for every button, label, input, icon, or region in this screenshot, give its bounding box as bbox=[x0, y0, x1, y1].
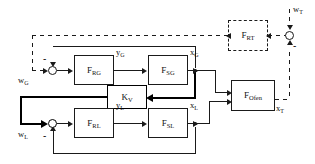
arrowhead-frt-output bbox=[226, 33, 231, 39]
wire-xt-feedback-vertical bbox=[289, 52, 290, 100]
wire-kv-to-suml bbox=[20, 123, 42, 125]
arrowhead-xg-into-ofen bbox=[227, 90, 232, 96]
minus-sign-temperature: - bbox=[293, 41, 296, 51]
block-f-rt-subscript: RT bbox=[247, 35, 255, 42]
arrowhead-into-kv bbox=[146, 94, 153, 102]
block-f-rg[interactable]: FRG bbox=[74, 55, 114, 85]
wire-xg-to-ofen-vertical bbox=[215, 70, 216, 92]
block-f-sg-subscript: SG bbox=[166, 70, 174, 77]
block-f-ofen[interactable]: FOfen bbox=[231, 80, 275, 111]
wire-xg-feedback-down bbox=[0, 0, 1, 20]
signal-label-w-g: wG bbox=[18, 76, 28, 85]
arrowhead-xl-into-ofen bbox=[227, 99, 232, 105]
summing-junction-temperature bbox=[285, 31, 294, 40]
wire-kv-input-vertical bbox=[194, 70, 196, 99]
signal-label-w-t: wT bbox=[293, 5, 303, 14]
arrowhead-kv-into-suml bbox=[41, 120, 48, 128]
arrowhead-wt-into-sum bbox=[287, 25, 293, 30]
signal-label-w-l: wL bbox=[18, 130, 28, 139]
arrowhead-into-frg bbox=[68, 68, 73, 74]
block-f-rl-subscript: RL bbox=[92, 123, 100, 130]
block-f-rg-subscript: RG bbox=[92, 70, 101, 77]
wire-xl-to-ofen-vertical bbox=[209, 101, 210, 123]
signal-label-x-t: xT bbox=[276, 104, 284, 113]
wire-frl-to-fsl bbox=[114, 123, 143, 124]
wire-xg-feedback-horizontal bbox=[53, 46, 196, 47]
wire-kv-output-horizontal bbox=[20, 96, 107, 98]
signal-label-x-g: xG bbox=[190, 48, 199, 57]
arrowhead-into-frt bbox=[266, 33, 271, 39]
wire-kv-input-horizontal bbox=[152, 97, 195, 99]
block-diagram-canvas: wT - FRT wG - FRG yG FSG bbox=[0, 0, 315, 164]
wire-xl-feedback-horizontal bbox=[53, 153, 196, 154]
block-k-v[interactable]: KV bbox=[107, 85, 147, 109]
summing-junction-gas bbox=[48, 66, 57, 75]
wire-xl-feedback-down bbox=[195, 127, 196, 153]
signal-label-y-l: yL bbox=[116, 101, 124, 110]
arrowhead-into-fsg bbox=[142, 68, 147, 74]
arrowhead-into-frl bbox=[68, 121, 73, 127]
signal-label-x-l: xL bbox=[190, 101, 198, 110]
block-f-sg[interactable]: FSG bbox=[148, 55, 188, 85]
junction-dot-xg bbox=[194, 69, 197, 72]
wire-left-edge-down bbox=[32, 35, 33, 70]
arrowhead-xt-into-sum bbox=[287, 40, 293, 45]
block-f-ofen-subscript: Ofen bbox=[249, 95, 262, 102]
block-f-sl[interactable]: FSL bbox=[148, 108, 188, 138]
wire-fsl-output bbox=[188, 123, 210, 124]
wire-kv-output-vertical bbox=[20, 96, 22, 124]
block-f-rl[interactable]: FRL bbox=[74, 108, 114, 138]
wire-frg-to-fsg bbox=[114, 70, 143, 71]
minus-sign-air: - bbox=[43, 131, 46, 141]
signal-label-y-g: yG bbox=[116, 48, 125, 57]
minus-sign-gas: - bbox=[43, 54, 46, 64]
summing-junction-air bbox=[48, 119, 57, 128]
arrowhead-into-fsl bbox=[142, 121, 147, 127]
junction-dot-xl bbox=[194, 122, 197, 125]
block-f-sl-subscript: SL bbox=[167, 123, 175, 130]
wire-xl-to-ofen-horizontal bbox=[209, 101, 228, 102]
wire-ofen-output-xt bbox=[275, 99, 289, 100]
wire-wt-down bbox=[289, 9, 290, 26]
wire-xl-feedback-riser bbox=[53, 130, 54, 153]
block-f-rt[interactable]: FRT bbox=[228, 20, 268, 51]
block-k-v-subscript: V bbox=[128, 97, 133, 104]
wire-frt-to-left-top bbox=[32, 35, 228, 36]
